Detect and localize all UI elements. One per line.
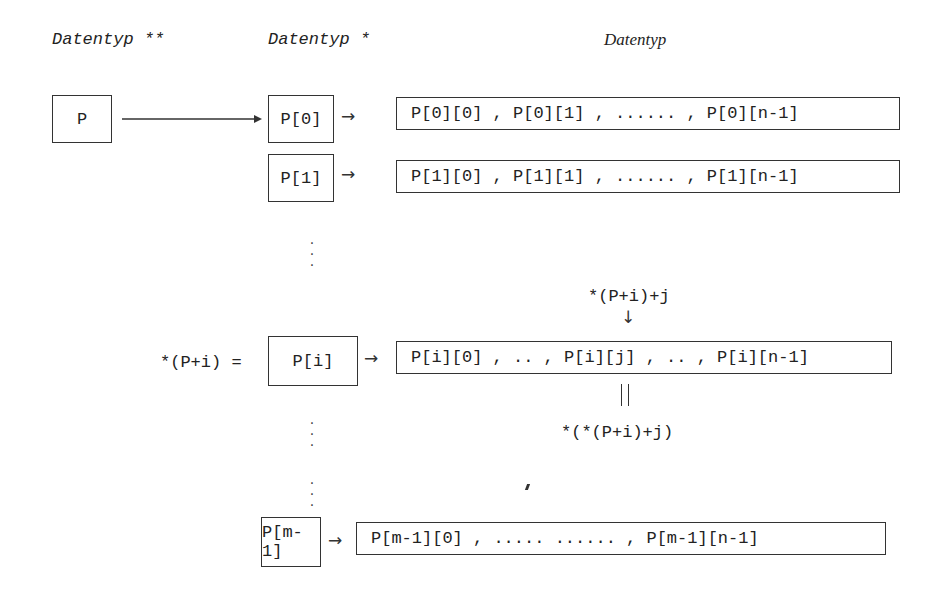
vertical-ellipsis-icon: ··· bbox=[307, 418, 317, 451]
header-datatype: Datentyp bbox=[604, 30, 666, 50]
vertical-ellipsis-icon: ··· bbox=[307, 238, 317, 271]
row-values-text: P[i][0] , .. , P[i][j] , .. , P[i][n-1] bbox=[411, 348, 809, 367]
right-arrow-icon: → bbox=[341, 106, 355, 126]
row-pointer-label: P[1] bbox=[281, 169, 322, 188]
row-values-text: P[0][0] , P[0][1] , ...... , P[0][n-1] bbox=[411, 104, 799, 123]
row-values-box: P[0][0] , P[0][1] , ...... , P[0][n-1] bbox=[396, 97, 900, 130]
row-values-box: P[i][0] , .. , P[i][j] , .. , P[i][n-1] bbox=[396, 341, 892, 374]
row-values-text: P[1][0] , P[1][1] , ...... , P[1][n-1] bbox=[411, 167, 799, 186]
row-i-prefix-label: *(P+i) = bbox=[160, 353, 242, 372]
row-pointer-box: P[i] bbox=[268, 336, 358, 386]
row-pointer-label: P[0] bbox=[281, 110, 322, 129]
down-arrow-icon: ↓ bbox=[621, 307, 635, 327]
header-pointer: Datentyp * bbox=[268, 30, 370, 49]
element-value-label: *(*(P+i)+j) bbox=[561, 423, 673, 442]
right-arrow-icon: → bbox=[341, 164, 355, 184]
stray-mark bbox=[525, 484, 530, 490]
row-pointer-label: P[m-1] bbox=[262, 523, 320, 561]
long-arrow-icon bbox=[122, 112, 262, 126]
equals-vertical-icon bbox=[621, 384, 629, 406]
right-arrow-icon: → bbox=[328, 530, 342, 550]
row-pointer-box: P[1] bbox=[268, 154, 334, 202]
row-values-box: P[1][0] , P[1][1] , ...... , P[1][n-1] bbox=[396, 160, 900, 193]
row-pointer-box: P[0] bbox=[268, 95, 334, 143]
pointer-box-p: P bbox=[52, 95, 112, 143]
row-pointer-box: P[m-1] bbox=[261, 517, 321, 567]
right-arrow-icon: → bbox=[364, 348, 378, 368]
row-values-box: P[m-1][0] , ..... ...... , P[m-1][n-1] bbox=[356, 522, 886, 555]
row-values-text: P[m-1][0] , ..... ...... , P[m-1][n-1] bbox=[371, 529, 759, 548]
vertical-ellipsis-icon: ··· bbox=[307, 478, 317, 511]
pointer-box-p-label: P bbox=[77, 110, 87, 129]
element-address-label: *(P+i)+j bbox=[588, 287, 670, 306]
header-pointer-to-pointer: Datentyp ** bbox=[52, 30, 164, 49]
row-pointer-label: P[i] bbox=[293, 352, 334, 371]
